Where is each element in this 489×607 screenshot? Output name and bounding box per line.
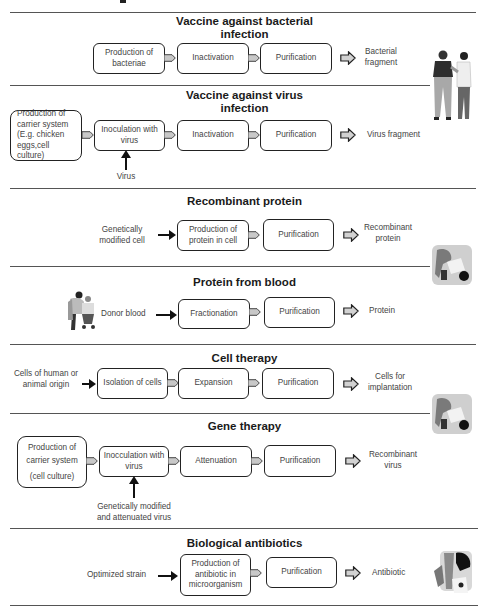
connector-arrow-icon [86, 457, 98, 465]
step-purification: Purification [264, 445, 336, 477]
input-genetically-modified-cell: Genetically modified cell [96, 225, 148, 246]
input-virus: Virus [106, 172, 146, 183]
block-arrow-icon [345, 566, 361, 580]
step-inactivation: Inactivation [177, 43, 249, 74]
connector-arrow-icon [82, 131, 94, 139]
step-isolation-of-cells: Isolation of cells [97, 368, 168, 399]
step-purification: Purification [262, 368, 334, 399]
block-arrow-icon [343, 377, 359, 391]
step-purification: Purification [264, 297, 335, 328]
divider [10, 85, 430, 86]
step-production-of-bacteriae: Production of bacteriae [93, 43, 165, 74]
input-arrow [82, 383, 94, 385]
connector-arrow-icon [249, 308, 261, 316]
block-arrow-icon [343, 304, 359, 318]
connector-arrow-icon [248, 54, 260, 62]
step-production-of-carrier-system: Production of carrier system (E.g. chick… [10, 110, 82, 161]
step-purification: Purification [263, 219, 334, 251]
section-title-cell-therapy: Cell therapy [0, 352, 489, 365]
input-arrow [158, 234, 174, 236]
connector-arrow-icon [164, 54, 176, 62]
step-production-of-antibiotic-in-microorganism: Production of antibiotic in microorganis… [180, 554, 251, 596]
section-title-gene-therapy: Gene therapy [0, 420, 489, 433]
section-title-protein-from-blood: Protein from blood [0, 276, 489, 289]
step-purification: Purification [260, 120, 332, 151]
block-arrow-icon [340, 128, 356, 142]
step-fractionation: Fractionation [178, 299, 250, 329]
top-text-fragment [120, 0, 126, 3]
output-protein: Protein [369, 306, 395, 317]
step-inactivation: Inactivation [177, 120, 249, 151]
step-production-of-carrier-system: Production of carrier system (cell cultu… [17, 436, 87, 488]
input-arrow-up [133, 479, 135, 498]
connector-arrow-icon [250, 569, 262, 577]
divider [10, 344, 476, 345]
section-title-bacterial-vaccine: Vaccine against bacterial infection [0, 15, 489, 41]
input-arrow [158, 575, 176, 577]
output-recombinant-virus: Recombinant virus [368, 450, 418, 471]
connector-arrow-icon [248, 379, 260, 387]
step-inoculation-with-virus: Inoculation with virus [94, 120, 165, 151]
output-virus-fragment: Virus fragment [367, 130, 420, 141]
connector-arrow-icon [168, 457, 180, 465]
block-arrow-icon [345, 454, 361, 468]
block-arrow-icon [343, 228, 359, 242]
box-line: carrier system [26, 454, 77, 467]
box-line: (cell culture) [30, 470, 75, 483]
output-antibiotic: Antibiotic [372, 568, 405, 579]
step-inocculation-with-virus: Inocculation with virus [99, 446, 169, 477]
divider [10, 188, 476, 189]
divider [10, 605, 478, 606]
connector-arrow-icon [248, 131, 260, 139]
block-arrow-icon [340, 51, 356, 65]
connector-arrow-icon [248, 231, 260, 239]
section-title-recombinant-protein: Recombinant protein [0, 195, 489, 208]
input-cells-of-human-or-animal-origin: Cells of human or animal origin [12, 369, 80, 390]
connector-arrow-icon [164, 131, 176, 139]
box-line: Production of [28, 441, 76, 454]
section-title-biological-antibiotics: Biological antibiotics [0, 537, 489, 550]
input-arrow-up [125, 153, 127, 170]
divider [10, 413, 430, 414]
divider [10, 12, 476, 13]
divider [10, 266, 430, 267]
step-attenuation: Attenuation [180, 446, 252, 477]
title-line: Vaccine against bacterial [0, 15, 489, 28]
title-line: infection [0, 28, 489, 41]
divider [10, 528, 478, 529]
blood-donor-illustration-icon [64, 290, 98, 332]
title-line: Vaccine against virus [0, 89, 489, 102]
step-purification: Purification [266, 557, 337, 588]
step-purification: Purification [260, 43, 332, 74]
output-cells-for-implantation: Cells for implantation [365, 372, 415, 393]
step-production-of-protein-in-cell: Production of protein in cell [177, 220, 249, 251]
input-genetically-modified-attenuated-virus: Genetically modified and attenuated viru… [96, 502, 172, 523]
output-recombinant-protein: Recombinant protein [363, 223, 413, 244]
input-optimized-strain: Optimized strain [87, 570, 146, 581]
input-arrow [156, 314, 175, 316]
lab-worker-illustration-icon [432, 549, 476, 599]
connector-arrow-icon [251, 457, 263, 465]
output-bacterial-fragment: Bacterial fragment [361, 47, 401, 68]
input-donor-blood: Donor blood [101, 309, 146, 320]
step-expansion: Expansion [178, 368, 249, 399]
